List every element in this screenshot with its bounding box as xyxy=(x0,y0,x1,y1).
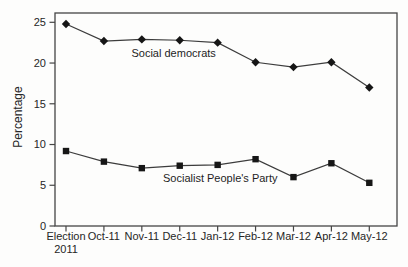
series-inline-label-social-democrats: Social democrats xyxy=(131,47,216,59)
y-tick-label: 5 xyxy=(40,179,46,191)
data-point-square-marker xyxy=(177,163,183,169)
x-tick-label: Dec-11 xyxy=(162,230,197,242)
data-point-diamond-marker xyxy=(327,58,335,66)
x-tick-label: May-12 xyxy=(351,230,388,242)
x-tick-label: Nov-11 xyxy=(124,230,159,242)
data-point-diamond-marker xyxy=(100,37,108,45)
data-point-square-marker xyxy=(328,160,334,166)
plot-frame xyxy=(55,13,397,226)
data-point-square-marker xyxy=(252,156,258,162)
data-point-square-marker xyxy=(290,174,296,180)
data-point-square-marker xyxy=(101,158,107,164)
data-point-square-marker xyxy=(63,148,69,154)
data-point-diamond-marker xyxy=(176,36,184,44)
series-inline-label-socialist-people-s-party: Socialist People's Party xyxy=(163,172,278,184)
data-point-diamond-marker xyxy=(62,20,70,28)
x-tick-label: Election xyxy=(46,230,85,242)
y-tick-label: 20 xyxy=(34,57,46,69)
y-tick-label: 15 xyxy=(34,98,46,110)
data-point-diamond-marker xyxy=(213,38,221,46)
data-point-square-marker xyxy=(366,180,372,186)
x-tick-label: Jan-12 xyxy=(201,230,235,242)
data-point-square-marker xyxy=(139,165,145,171)
data-point-diamond-marker xyxy=(289,63,297,71)
y-tick-label: 10 xyxy=(34,138,46,150)
x-tick-label: Mar-12 xyxy=(276,230,311,242)
y-axis-title: Percentage xyxy=(11,86,25,148)
data-point-diamond-marker xyxy=(251,58,259,66)
series-line-social-democrats xyxy=(66,24,369,88)
poll-trend-chart: Percentage 0510152025Election2011Oct-11N… xyxy=(0,0,408,267)
y-tick-label: 0 xyxy=(40,220,46,232)
x-tick-label: Oct-11 xyxy=(88,230,120,242)
data-point-diamond-marker xyxy=(365,83,373,91)
data-point-diamond-marker xyxy=(138,35,146,43)
chart-canvas: Percentage 0510152025Election2011Oct-11N… xyxy=(0,0,408,267)
x-tick-label: 2011 xyxy=(54,243,78,255)
x-tick-label: Feb-12 xyxy=(238,230,273,242)
x-tick-label: Apr-12 xyxy=(315,230,348,242)
data-point-square-marker xyxy=(214,162,220,168)
y-tick-label: 25 xyxy=(34,16,46,28)
